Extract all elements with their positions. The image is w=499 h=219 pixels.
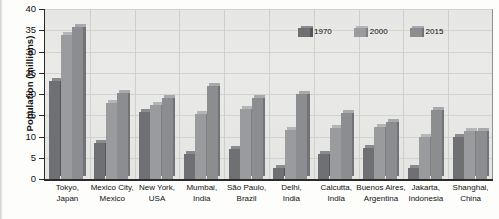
bar-2000 bbox=[240, 109, 251, 179]
bar-2000 bbox=[374, 127, 385, 179]
bar-2000 bbox=[106, 103, 117, 179]
bar-2000 bbox=[330, 128, 341, 179]
y-tick bbox=[39, 158, 44, 159]
bar-1970 bbox=[408, 168, 419, 179]
y-tick bbox=[39, 179, 44, 180]
y-tick-label: 25 bbox=[0, 67, 36, 78]
y-tick-label: 30 bbox=[0, 46, 36, 57]
legend-item-2015: 2015 bbox=[410, 26, 444, 37]
legend-label-2015: 2015 bbox=[426, 27, 444, 36]
bar-1970 bbox=[229, 149, 240, 179]
y-tick bbox=[39, 94, 44, 95]
bar-1970 bbox=[49, 81, 60, 179]
bar-1970 bbox=[363, 148, 374, 179]
bar-2015 bbox=[296, 94, 307, 179]
bar-1970 bbox=[94, 143, 105, 179]
bar-2000 bbox=[464, 131, 475, 179]
bar-2015 bbox=[162, 98, 173, 179]
x-axis-line bbox=[44, 179, 493, 181]
bar-1970 bbox=[184, 154, 195, 179]
legend-label-1970: 1970 bbox=[314, 27, 332, 36]
y-axis-line bbox=[44, 9, 45, 180]
category-label-line: Shanghai, bbox=[442, 183, 499, 194]
y-tick bbox=[39, 137, 44, 138]
bar-2015 bbox=[386, 122, 397, 179]
legend-swatch-2000 bbox=[354, 26, 366, 37]
bar-2000 bbox=[150, 105, 161, 179]
y-tick bbox=[39, 52, 44, 53]
y-tick bbox=[39, 9, 44, 10]
y-tick-label: 5 bbox=[0, 152, 36, 163]
legend-swatch-1970 bbox=[298, 26, 310, 37]
bar-1970 bbox=[139, 112, 150, 179]
bar-1970 bbox=[453, 137, 464, 179]
bar-2015 bbox=[252, 98, 263, 179]
legend-label-2000: 2000 bbox=[370, 27, 388, 36]
y-tick bbox=[39, 73, 44, 74]
y-tick-label: 40 bbox=[0, 3, 36, 14]
y-tick-label: 15 bbox=[0, 109, 36, 120]
bar-2000 bbox=[61, 35, 72, 180]
y-tick-label: 10 bbox=[0, 131, 36, 142]
y-tick bbox=[39, 30, 44, 31]
legend-item-1970: 1970 bbox=[298, 26, 332, 37]
bar-2015 bbox=[476, 131, 487, 179]
bar-1970 bbox=[273, 168, 284, 179]
bar-2000 bbox=[419, 137, 430, 179]
bar-2015 bbox=[72, 27, 83, 179]
population-bar-chart: Population (millions) 0510152025303540 T… bbox=[0, 0, 499, 219]
legend-item-2000: 2000 bbox=[354, 26, 388, 37]
y-tick-label: 0 bbox=[0, 173, 36, 184]
bar-group bbox=[135, 9, 180, 179]
bar-2015 bbox=[431, 110, 442, 179]
y-tick-label: 20 bbox=[0, 88, 36, 99]
bar-2015 bbox=[341, 113, 352, 179]
y-tick bbox=[39, 115, 44, 116]
bar-group bbox=[224, 9, 269, 179]
category-label-line: China bbox=[442, 194, 499, 205]
bar-2015 bbox=[117, 93, 128, 179]
bar-2015 bbox=[207, 86, 218, 179]
bar-group bbox=[448, 9, 493, 179]
bar-2000 bbox=[195, 114, 206, 179]
y-tick-label: 35 bbox=[0, 24, 36, 35]
bar-2000 bbox=[285, 130, 296, 179]
bar-group bbox=[179, 9, 224, 179]
chart-legend: 1970 2000 2015 bbox=[298, 26, 443, 37]
bar-group bbox=[45, 9, 90, 179]
category-label: Shanghai,China bbox=[442, 183, 499, 204]
bar-1970 bbox=[318, 154, 329, 180]
legend-swatch-2015 bbox=[410, 26, 422, 37]
bar-group bbox=[90, 9, 135, 179]
